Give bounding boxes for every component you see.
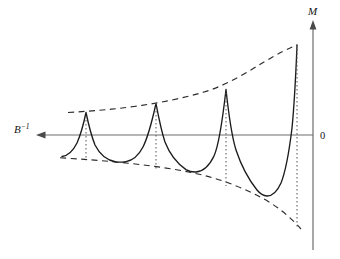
dhva-oscillation-chart: B−1 M 0 [0,0,340,259]
magnetization-axis-label: M [307,5,318,17]
inverse-field-axis-label: B−1 [14,122,30,135]
origin-label: 0 [320,130,325,141]
figure-container: B−1 M 0 [0,0,340,259]
magnetization-axis-arrowhead [310,20,317,30]
magnetization-curve [62,45,297,196]
upper-envelope [68,45,297,113]
lower-envelope [60,158,301,229]
inverse-field-axis [36,132,313,139]
inverse-field-axis-arrowhead [36,132,46,139]
inverse-field-axis-label-superscript: −1 [21,122,30,131]
